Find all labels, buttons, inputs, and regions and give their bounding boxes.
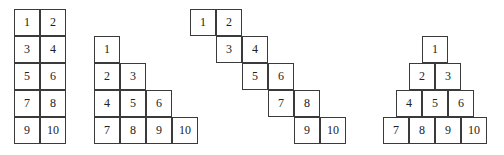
grid-cell: 7 [14,90,40,117]
grid-cell: 2 [94,63,120,90]
grid-cell: 6 [40,63,66,90]
grid-cell: 5 [120,90,146,117]
grid-cell: 5 [422,90,448,117]
grid-cell: 8 [409,117,435,144]
grid-cell: 4 [242,36,268,63]
grid-cell: 6 [448,90,474,117]
grid-cell: 9 [294,117,320,144]
grid-cell: 8 [294,90,320,117]
grid-cell: 7 [268,90,294,117]
grid-cell: 8 [40,90,66,117]
numbered-grid-figures: 12345678910 12345678910 12345678910 1234… [0,0,504,155]
grid-cell: 6 [268,63,294,90]
grid-cell: 10 [40,117,66,144]
grid-cell: 10 [320,117,346,144]
grid-cell: 9 [435,117,461,144]
grid-cell: 3 [216,36,242,63]
grid-cell: 4 [396,90,422,117]
grid-cell: 1 [94,36,120,63]
grid-cell: 8 [120,117,146,144]
grid-cell: 7 [94,117,120,144]
grid-cell: 1 [422,36,448,63]
grid-cell: 2 [216,9,242,36]
grid-cell: 10 [461,117,487,144]
grid-cell: 1 [190,9,216,36]
grid-cell: 3 [435,63,461,90]
grid-cell: 3 [14,36,40,63]
grid-cell: 9 [146,117,172,144]
grid-cell: 2 [40,9,66,36]
grid-cell: 4 [40,36,66,63]
grid-cell: 2 [409,63,435,90]
grid-cell: 9 [14,117,40,144]
grid-cell: 4 [94,90,120,117]
grid-cell: 7 [383,117,409,144]
grid-cell: 5 [14,63,40,90]
grid-cell: 10 [172,117,198,144]
grid-cell: 3 [120,63,146,90]
grid-cell: 6 [146,90,172,117]
grid-cell: 1 [14,9,40,36]
grid-cell: 5 [242,63,268,90]
